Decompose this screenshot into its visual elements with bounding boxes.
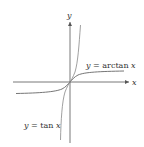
chart-canvas: y x y = arctan x y = tan x <box>0 0 144 147</box>
x-axis-label: x <box>132 78 137 87</box>
arctan-annotation: y = arctan x <box>85 61 136 70</box>
y-axis-label: y <box>66 11 72 20</box>
tan-curve <box>61 25 81 140</box>
tan-annotation: y = tan x <box>23 121 61 130</box>
